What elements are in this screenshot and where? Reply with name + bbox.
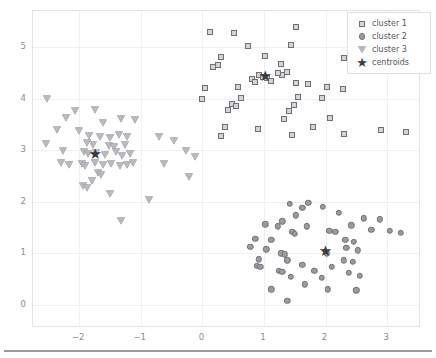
legend: cluster 1cluster 2cluster 3★centroids (347, 12, 431, 74)
data-point-square (268, 78, 274, 84)
data-point-triangle-down (191, 154, 199, 161)
data-point-circle (377, 216, 383, 222)
data-point-square (293, 24, 299, 30)
y-tick-label: 3 (14, 144, 26, 154)
star-marker: ★ (356, 56, 368, 69)
data-point-circle (353, 287, 359, 293)
legend-entry: ★centroids (352, 56, 426, 69)
data-point-circle (268, 286, 274, 292)
data-point-triangle-down (185, 173, 193, 180)
data-point-square (207, 29, 213, 35)
data-point-circle (292, 230, 298, 236)
gridline-horizontal (33, 305, 419, 306)
data-point-triangle-down (59, 148, 67, 155)
data-point-circle (284, 257, 290, 263)
gridline-vertical (202, 11, 203, 326)
data-point-triangle-down (65, 161, 73, 168)
data-point-square (215, 62, 221, 68)
data-point-square (293, 80, 299, 86)
data-point-triangle-down (107, 160, 115, 167)
gridline-vertical (141, 11, 142, 326)
gridline-horizontal (33, 253, 419, 254)
data-point-circle (311, 268, 317, 274)
data-point-triangle-down (101, 152, 109, 159)
data-point-square (275, 70, 281, 76)
data-point-triangle-down (53, 126, 61, 133)
bottom-divider (4, 350, 432, 352)
data-point-square (252, 79, 258, 85)
data-point-circle (319, 275, 325, 281)
data-point-triangle-down (155, 133, 163, 140)
y-tick-label: 5 (14, 41, 26, 51)
data-point-circle (288, 274, 294, 280)
data-point-triangle-down (57, 159, 65, 166)
data-point-circle (257, 263, 263, 269)
data-point-circle (351, 239, 357, 245)
data-point-triangle-down (123, 133, 131, 140)
x-tick-label: 0 (199, 332, 204, 342)
data-point-triangle-down (105, 143, 113, 150)
data-point-circle (299, 205, 305, 211)
data-point-circle (326, 227, 332, 233)
data-point-triangle-down (96, 133, 104, 140)
y-tick-label: 1 (14, 247, 26, 257)
data-point-square (403, 129, 409, 135)
data-point-square (319, 95, 325, 101)
data-point-square (310, 124, 316, 130)
data-point-square (218, 54, 224, 60)
data-point-circle (247, 244, 253, 250)
data-point-triangle-down (106, 134, 114, 141)
data-point-square (245, 43, 251, 49)
legend-label: centroids (372, 58, 409, 67)
data-point-triangle-down (99, 120, 107, 127)
data-point-circle (253, 262, 259, 268)
data-point-square (278, 61, 284, 67)
data-point-circle (279, 269, 285, 275)
data-point-circle (368, 226, 374, 232)
data-point-triangle-down (42, 140, 50, 147)
gridline-horizontal (33, 99, 419, 100)
data-point-circle (252, 236, 258, 242)
data-point-triangle-down (81, 162, 89, 169)
data-point-square (289, 132, 295, 138)
data-point-square (378, 127, 384, 133)
data-point-circle (274, 223, 280, 229)
legend-entry: cluster 1 (352, 17, 426, 30)
legend-marker-slot (352, 33, 372, 39)
x-tick-label: 3 (383, 332, 388, 342)
data-point-circle (289, 228, 295, 234)
data-point-square (286, 108, 292, 114)
legend-marker-slot (352, 46, 372, 53)
data-point-triangle-down (121, 142, 129, 149)
data-point-triangle-down (170, 137, 178, 144)
data-point-triangle-down (88, 178, 96, 185)
data-point-triangle-down (84, 151, 92, 158)
data-point-square (284, 69, 290, 75)
data-point-circle (284, 297, 290, 303)
data-point-circle (268, 237, 274, 243)
data-point-circle (328, 263, 334, 269)
data-point-circle (348, 222, 354, 228)
legend-label: cluster 3 (372, 45, 407, 54)
data-point-square (256, 72, 262, 78)
data-point-square (249, 76, 255, 82)
gridline-vertical (79, 11, 80, 326)
data-point-triangle-down (99, 161, 107, 168)
legend-entry: cluster 2 (352, 30, 426, 43)
data-point-square (229, 101, 235, 107)
data-point-triangle-down (182, 148, 190, 155)
data-point-circle (276, 268, 282, 274)
data-point-circle (397, 229, 403, 235)
data-point-circle (343, 245, 349, 251)
gridline-vertical (326, 11, 327, 326)
data-point-triangle-down (131, 117, 139, 124)
data-point-triangle-down (115, 131, 123, 138)
data-point-circle (349, 258, 355, 264)
data-point-square (279, 72, 285, 78)
data-point-square (222, 124, 228, 130)
data-point-square (238, 95, 244, 101)
data-point-square (218, 133, 224, 139)
data-point-square (327, 115, 333, 121)
data-point-triangle-down (85, 132, 93, 139)
y-tick-label: 0 (14, 299, 26, 309)
